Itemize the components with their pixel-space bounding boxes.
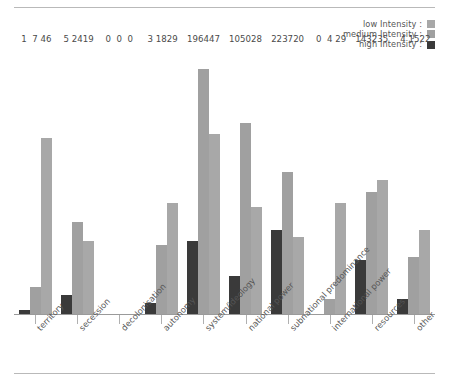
bar-value-label: 22 xyxy=(271,35,282,46)
bar-column[interactable]: 47 xyxy=(209,46,220,314)
x-axis-tick xyxy=(330,315,331,324)
bar-value-label: 18 xyxy=(156,35,167,46)
bar[interactable]: 20 xyxy=(293,237,304,314)
x-axis-tick xyxy=(119,315,120,324)
x-axis-label-cell: decolonisation xyxy=(98,315,140,385)
bar[interactable]: 22 xyxy=(419,230,430,314)
bar-column[interactable]: 37 xyxy=(282,46,293,314)
bar-value-label: 32 xyxy=(366,35,377,46)
x-axis-tick xyxy=(288,315,289,324)
bar[interactable]: 29 xyxy=(335,203,346,314)
x-axis-tick xyxy=(414,315,415,324)
legend-swatch-icon xyxy=(427,20,435,28)
bar-column[interactable]: 15 xyxy=(408,46,419,314)
bar-column[interactable]: 22 xyxy=(419,46,430,314)
bar-column[interactable]: 20 xyxy=(293,46,304,314)
x-axis-label-cell: system/ideology xyxy=(182,315,224,385)
bar-column[interactable]: 19 xyxy=(83,46,94,314)
x-axis-label-cell: resources xyxy=(351,315,393,385)
bar[interactable]: 28 xyxy=(251,207,262,314)
bar-column[interactable]: 4 xyxy=(397,46,408,314)
bar-column[interactable]: 0 xyxy=(313,46,324,314)
x-axis-label-cell: territory xyxy=(14,315,56,385)
x-axis-tick xyxy=(372,315,373,324)
legend-item-label: low Intensity : xyxy=(363,20,422,28)
bar[interactable]: 29 xyxy=(167,203,178,314)
bar[interactable]: 15 xyxy=(408,257,419,314)
bar-value-label: 19 xyxy=(83,35,94,46)
bar-value-label: 19 xyxy=(187,35,198,46)
x-axis-label-cell: subnational predominance xyxy=(267,315,309,385)
bar[interactable]: 46 xyxy=(41,138,52,314)
bar-column[interactable]: 14 xyxy=(355,46,366,314)
x-axis-label-cell: international power xyxy=(309,315,351,385)
bar-column[interactable]: 10 xyxy=(229,46,240,314)
bar-value-label: 22 xyxy=(419,35,430,46)
bar-value-label: 35 xyxy=(377,35,388,46)
bar-column[interactable]: 50 xyxy=(240,46,251,314)
bar-column[interactable]: 7 xyxy=(30,46,41,314)
bar-value-label: 7 xyxy=(32,35,37,46)
bar-column[interactable]: 0 xyxy=(114,46,125,314)
bar-group: 105028 xyxy=(224,46,266,314)
bar-group: 31829 xyxy=(140,46,182,314)
x-axis-tick xyxy=(35,315,36,324)
bar-column[interactable]: 0 xyxy=(103,46,114,314)
bar-group: 000 xyxy=(98,46,140,314)
bar-column[interactable]: 3 xyxy=(145,46,156,314)
x-axis-tick xyxy=(77,315,78,324)
bar-value-label: 4 xyxy=(327,35,332,46)
bar-value-label: 4 xyxy=(400,35,405,46)
bar-column[interactable]: 18 xyxy=(156,46,167,314)
bar-column[interactable]: 24 xyxy=(72,46,83,314)
bar-column[interactable]: 29 xyxy=(167,46,178,314)
bar-column[interactable]: 5 xyxy=(61,46,72,314)
bar[interactable]: 35 xyxy=(377,180,388,314)
x-axis-label-cell: other xyxy=(393,315,435,385)
bar-value-label: 0 xyxy=(106,35,111,46)
bar-value-label: 50 xyxy=(240,35,251,46)
bar-value-label: 29 xyxy=(167,35,178,46)
bar-groups: 1746524190003182919644710502822372004291… xyxy=(14,46,435,314)
bar-column[interactable]: 19 xyxy=(187,46,198,314)
bar-column[interactable]: 64 xyxy=(198,46,209,314)
x-axis-label-cell: secession xyxy=(56,315,98,385)
bar-group: 1746 xyxy=(14,46,56,314)
bar-column[interactable]: 4 xyxy=(324,46,335,314)
bar-value-label: 20 xyxy=(293,35,304,46)
x-axis-label-cell: national power xyxy=(224,315,266,385)
bar[interactable]: 19 xyxy=(83,241,94,314)
x-axis-labels: territorysecessiondecolonisationautonomy… xyxy=(14,315,435,385)
bar-column[interactable]: 28 xyxy=(251,46,262,314)
x-axis-tick xyxy=(161,315,162,324)
top-divider xyxy=(14,7,435,8)
bar-value-label: 29 xyxy=(335,35,346,46)
bar-value-label: 46 xyxy=(41,35,52,46)
bar[interactable]: 64 xyxy=(198,69,209,314)
bar[interactable]: 47 xyxy=(209,134,220,314)
bar[interactable]: 4 xyxy=(324,299,335,314)
bar-value-label: 47 xyxy=(209,35,220,46)
bar-value-label: 64 xyxy=(198,35,209,46)
bar-value-label: 1 xyxy=(21,35,26,46)
bar-column[interactable]: 32 xyxy=(366,46,377,314)
bar-column[interactable]: 46 xyxy=(41,46,52,314)
x-axis-tick xyxy=(246,315,247,324)
bar-column[interactable]: 22 xyxy=(271,46,282,314)
bar[interactable]: 7 xyxy=(30,287,41,314)
bar-value-label: 5 xyxy=(63,35,68,46)
bar-group: 41522 xyxy=(393,46,435,314)
legend-item-low[interactable]: low Intensity : xyxy=(363,20,435,28)
chart-page: low Intensity :medium Intensity :high In… xyxy=(0,0,449,390)
bar-group: 196447 xyxy=(182,46,224,314)
bar-value-label: 0 xyxy=(117,35,122,46)
bar-column[interactable]: 1 xyxy=(19,46,30,314)
bar-column[interactable]: 0 xyxy=(125,46,136,314)
bar-group: 52419 xyxy=(56,46,98,314)
bar-value-label: 24 xyxy=(72,35,83,46)
bar[interactable]: 24 xyxy=(72,222,83,314)
bar-value-label: 3 xyxy=(148,35,153,46)
bar-value-label: 15 xyxy=(408,35,419,46)
bar[interactable]: 18 xyxy=(156,245,167,314)
bar-value-label: 37 xyxy=(282,35,293,46)
